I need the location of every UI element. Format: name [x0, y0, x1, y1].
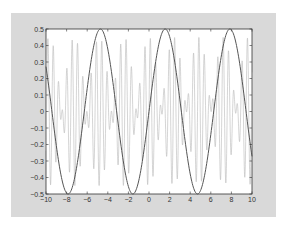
- x-tick-label: −2: [124, 196, 132, 203]
- y-tick-label: −0.4: [30, 174, 44, 181]
- x-tick-label: 4: [188, 196, 192, 203]
- x-tick-label: −4: [104, 196, 112, 203]
- y-tick-label: −0.1: [30, 125, 44, 132]
- y-tick-label: 0.2: [34, 75, 44, 82]
- x-tick-label: 8: [229, 196, 233, 203]
- y-tick-label: 0.1: [34, 92, 44, 99]
- x-tick-label: 0: [147, 196, 151, 203]
- y-tick-label: 0.4: [34, 42, 44, 49]
- x-tick-label: 2: [168, 196, 172, 203]
- x-tick-label: −6: [83, 196, 91, 203]
- x-tick-label: −8: [63, 196, 71, 203]
- y-tick-label: −0.3: [30, 158, 44, 165]
- y-tick-label: 0: [40, 108, 44, 115]
- x-tick-label: 10: [248, 196, 256, 203]
- x-tick-label: 6: [209, 196, 213, 203]
- line-chart: −10−8−6−4−20246810 −0.5−0.4−0.3−0.2−0.10…: [0, 0, 287, 227]
- y-tick-label: −0.2: [30, 141, 44, 148]
- figure-caption: [80, 219, 230, 225]
- y-tick-label: −0.5: [30, 191, 44, 198]
- y-tick-label: 0.3: [34, 59, 44, 66]
- y-tick-label: 0.5: [34, 26, 44, 33]
